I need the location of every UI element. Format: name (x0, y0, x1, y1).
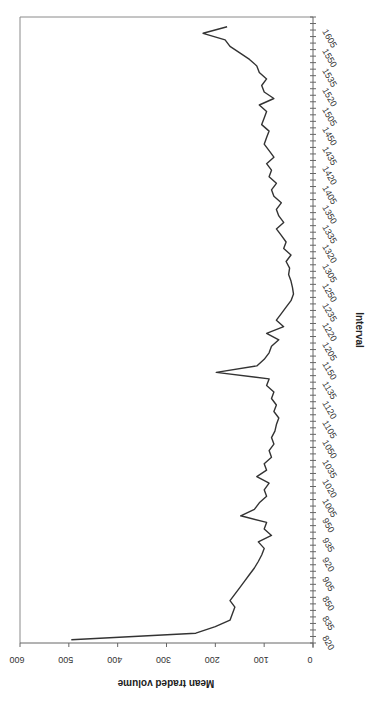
y-axis-ticks: 0100200300400500600 (9, 643, 313, 665)
x-tick-label: 1105 (320, 419, 338, 441)
x-tick-label: 1520 (320, 86, 339, 108)
x-tick-label: 1150 (320, 360, 338, 382)
x-tick-label: 1220 (320, 321, 339, 343)
x-tick-label: 1305 (320, 262, 339, 284)
x-tick-label: 835 (320, 614, 336, 632)
x-tick-label: 1335 (320, 223, 339, 245)
x-tick-label: 1205 (320, 340, 339, 362)
y-tick-label: 400 (107, 655, 122, 665)
x-axis-ticks: 8208358509059209359501005102010351050110… (310, 17, 339, 652)
x-tick-label: 1550 (320, 47, 339, 69)
x-tick-label: 1435 (320, 145, 339, 167)
mean-volume-line (71, 27, 293, 640)
x-tick-label: 1535 (320, 66, 339, 88)
x-tick-label: 1420 (320, 164, 339, 186)
x-tick-label: 950 (320, 516, 336, 534)
x-tick-label: 1605 (320, 27, 339, 49)
y-tick-label: 0 (307, 655, 312, 665)
x-tick-label: 1020 (320, 477, 339, 499)
x-tick-label: 1035 (320, 458, 339, 480)
x-tick-label: 1235 (320, 301, 339, 323)
x-tick-label: 850 (320, 595, 336, 613)
y-tick-label: 500 (58, 655, 73, 665)
y-tick-label: 200 (205, 655, 220, 665)
x-tick-label: 1320 (320, 242, 339, 264)
x-tick-label: 1120 (320, 399, 338, 421)
x-tick-label: 820 (320, 634, 336, 652)
x-tick-label: 1405 (320, 184, 339, 206)
x-tick-label: 920 (320, 555, 336, 573)
plot-frame (20, 17, 313, 643)
x-tick-label: 1350 (320, 203, 339, 225)
y-axis-title: Mean traded volume (117, 678, 214, 689)
y-tick-label: 600 (9, 655, 24, 665)
line-chart: 0100200300400500600 82083585090592093595… (0, 0, 376, 701)
y-tick-label: 100 (254, 655, 269, 665)
x-tick-label: 1505 (320, 106, 339, 128)
x-tick-label: 1005 (320, 497, 339, 519)
y-tick-label: 300 (156, 655, 171, 665)
x-tick-label: 905 (320, 575, 336, 593)
x-tick-label: 935 (320, 536, 336, 554)
x-tick-label: 1050 (320, 438, 339, 460)
x-axis-title: Interval (354, 312, 365, 348)
x-tick-label: 1135 (320, 379, 338, 401)
x-tick-label: 1450 (320, 125, 339, 147)
x-tick-label: 1250 (320, 282, 339, 304)
